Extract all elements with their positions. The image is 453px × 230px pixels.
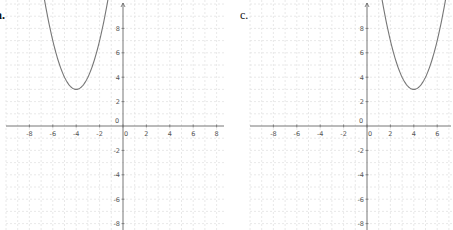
origin-label: 0 <box>115 117 119 125</box>
origin-label: 0 <box>359 117 363 125</box>
y-tick-label: -8 <box>114 220 120 228</box>
y-tick-label: -2 <box>114 147 120 155</box>
y-tick-label: -4 <box>114 171 120 179</box>
x-tick-label: -6 <box>294 130 300 138</box>
coordinate-plane-c: -8-6-4-20246-8-6-4-202468 <box>226 0 453 230</box>
y-tick-label: 6 <box>360 49 364 57</box>
y-tick-label: 2 <box>360 98 364 106</box>
grid <box>250 0 453 230</box>
x-tick-label: -2 <box>96 130 102 138</box>
x-tick-label: -2 <box>340 130 346 138</box>
x-tick-label: -4 <box>73 130 79 138</box>
panel-label-a: a. <box>0 8 5 23</box>
x-tick-label: 8 <box>215 130 219 138</box>
x-tick-label: 4 <box>412 130 416 138</box>
axes: -8-6-4-202468-8-6-4-202468 <box>6 3 224 230</box>
x-tick-label: 0 <box>368 130 372 138</box>
y-tick-label: -6 <box>358 196 364 204</box>
y-tick-label: 8 <box>360 25 364 33</box>
axes: -8-6-4-20246-8-6-4-202468 <box>250 3 451 230</box>
y-tick-label: -2 <box>358 147 364 155</box>
x-tick-label: 2 <box>388 130 392 138</box>
x-tick-label: -6 <box>50 130 56 138</box>
y-tick-label: 4 <box>116 74 120 82</box>
x-tick-label: 2 <box>144 130 148 138</box>
y-tick-label: 4 <box>360 74 364 82</box>
x-tick-label: -4 <box>317 130 323 138</box>
y-tick-label: -8 <box>358 220 364 228</box>
y-tick-label: -6 <box>114 196 120 204</box>
x-tick-label: 0 <box>124 130 128 138</box>
x-tick-label: -8 <box>270 130 276 138</box>
x-tick-label: 4 <box>168 130 172 138</box>
graph-panel-a: -8-6-4-202468-8-6-4-202468 a. <box>0 0 226 230</box>
coordinate-plane-a: -8-6-4-202468-8-6-4-202468 <box>0 0 226 230</box>
y-tick-label: 6 <box>116 49 120 57</box>
y-tick-label: 8 <box>116 25 120 33</box>
x-tick-label: 6 <box>435 130 439 138</box>
y-tick-label: -4 <box>358 171 364 179</box>
graph-panel-c: -8-6-4-20246-8-6-4-202468 c. <box>226 0 453 230</box>
y-tick-label: 2 <box>116 98 120 106</box>
x-tick-label: -8 <box>26 130 32 138</box>
x-tick-label: 6 <box>191 130 195 138</box>
panel-label-c: c. <box>240 8 248 23</box>
